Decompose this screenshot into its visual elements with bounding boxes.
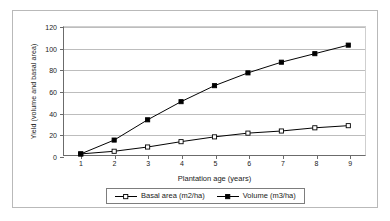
data-point-marker [246, 71, 250, 75]
legend-item-label: Basal area (m2/ha) [141, 192, 205, 200]
x-tick-mark [148, 155, 149, 159]
y-tick-label: 120 [45, 24, 57, 31]
series-line [81, 126, 349, 154]
data-point-marker [112, 149, 116, 153]
x-tick-label: 6 [247, 160, 251, 167]
y-tick-label: 20 [49, 132, 57, 139]
x-tick-mark [216, 155, 217, 159]
data-point-marker [346, 124, 350, 128]
open-square-marker-icon [115, 192, 137, 201]
chart-legend: Basal area (m2/ha)Volume (m3/ha) [106, 188, 305, 204]
data-point-marker [346, 43, 350, 47]
x-tick-mark [283, 155, 284, 159]
x-tick-mark [115, 155, 116, 159]
data-point-marker [313, 52, 317, 56]
data-point-marker [179, 140, 183, 144]
x-tick-label: 9 [348, 160, 352, 167]
data-point-marker [146, 118, 150, 122]
x-tick-label: 2 [113, 160, 117, 167]
data-point-marker [179, 100, 183, 104]
x-tick-label: 5 [214, 160, 218, 167]
data-point-marker [313, 126, 317, 130]
y-tick-label: 40 [49, 110, 57, 117]
filled-square-marker-icon [217, 192, 239, 201]
x-tick-label: 7 [281, 160, 285, 167]
series-layer [64, 27, 365, 155]
x-tick-mark [182, 155, 183, 159]
data-point-marker [212, 135, 216, 139]
data-point-marker [146, 145, 150, 149]
data-point-marker [112, 138, 116, 142]
plot-area: 020406080100120 123456789 [63, 26, 366, 156]
y-tick-label: 80 [49, 67, 57, 74]
y-tick-mark [60, 157, 64, 158]
x-tick-label: 3 [146, 160, 150, 167]
y-axis-title: Yield (volume and basal area) [27, 29, 41, 153]
data-point-marker [79, 152, 83, 156]
x-tick-label: 1 [79, 160, 83, 167]
data-point-marker [246, 131, 250, 135]
y-tick-label: 0 [53, 154, 57, 161]
x-tick-mark [249, 155, 250, 159]
y-axis-title-label: Yield (volume and basal area) [31, 43, 38, 139]
data-point-marker [279, 60, 283, 64]
legend-item[interactable]: Basal area (m2/ha) [115, 192, 205, 201]
chart-container: Yield (volume and basal area) 0204060801… [12, 10, 378, 208]
y-tick-label: 60 [49, 89, 57, 96]
x-tick-mark [317, 155, 318, 159]
data-point-marker [212, 84, 216, 88]
x-tick-label: 4 [180, 160, 184, 167]
x-axis-title: Plantation age (years) [63, 174, 366, 183]
x-tick-mark [350, 155, 351, 159]
legend-item-label: Volume (m3/ha) [243, 192, 296, 200]
x-tick-label: 8 [315, 160, 319, 167]
y-tick-label: 100 [45, 45, 57, 52]
data-point-marker [279, 129, 283, 133]
legend-item[interactable]: Volume (m3/ha) [217, 192, 296, 201]
